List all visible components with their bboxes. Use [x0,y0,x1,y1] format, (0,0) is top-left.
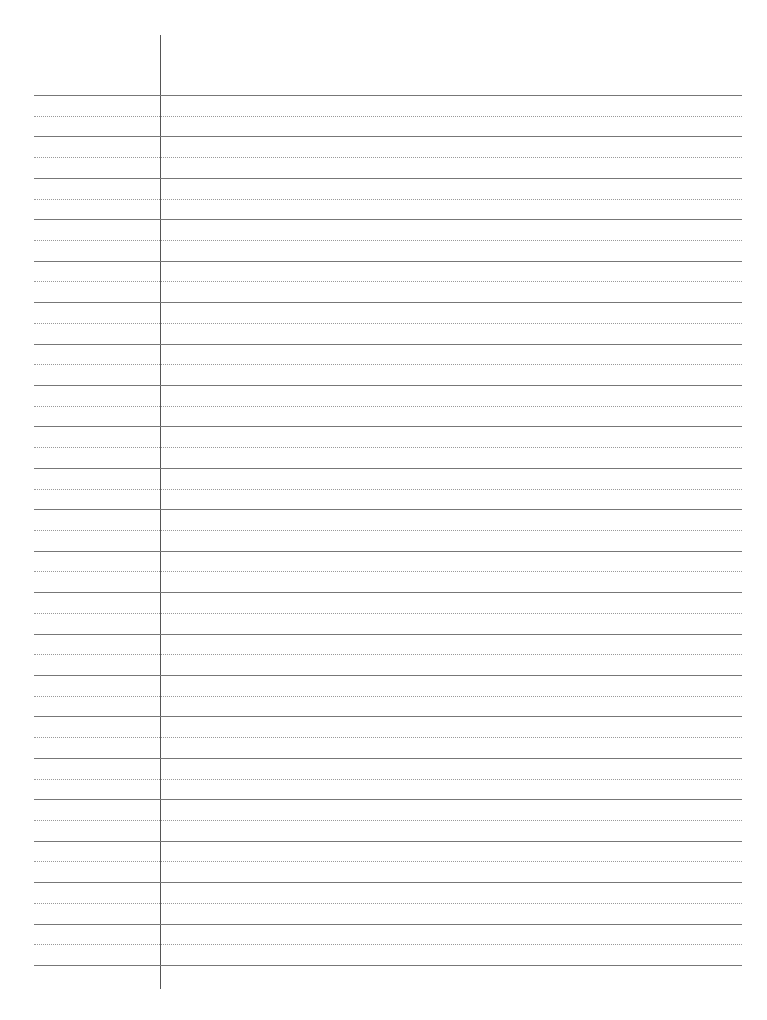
dotted-guide-line [34,861,742,862]
solid-rule-line [34,841,742,842]
dotted-guide-line [34,281,742,282]
solid-rule-line [34,716,742,717]
solid-rule-line [34,261,742,262]
dotted-guide-line [34,406,742,407]
dotted-guide-line [34,903,742,904]
solid-rule-line [34,178,742,179]
solid-rule-line [34,136,742,137]
solid-rule-line [34,95,742,96]
solid-rule-line [34,426,742,427]
solid-rule-line [34,468,742,469]
solid-rule-line [34,592,742,593]
dotted-guide-line [34,779,742,780]
dotted-guide-line [34,571,742,572]
dotted-guide-line [34,157,742,158]
dotted-guide-line [34,447,742,448]
solid-rule-line [34,882,742,883]
solid-rule-line [34,509,742,510]
solid-rule-line [34,799,742,800]
dotted-guide-line [34,820,742,821]
dotted-guide-line [34,737,742,738]
solid-rule-line [34,551,742,552]
solid-rule-line [34,924,742,925]
dotted-guide-line [34,364,742,365]
solid-rule-line [34,385,742,386]
dotted-guide-line [34,489,742,490]
dotted-guide-line [34,944,742,945]
solid-rule-line [34,758,742,759]
solid-rule-line [34,675,742,676]
solid-rule-line [34,302,742,303]
dotted-guide-line [34,654,742,655]
solid-rule-line [34,219,742,220]
dotted-guide-line [34,696,742,697]
dotted-guide-line [34,116,742,117]
solid-rule-line [34,634,742,635]
dotted-guide-line [34,530,742,531]
dotted-guide-line [34,199,742,200]
solid-rule-line [34,344,742,345]
dotted-guide-line [34,323,742,324]
dotted-guide-line [34,613,742,614]
dotted-guide-line [34,240,742,241]
solid-rule-line [34,965,742,966]
lined-paper-page [0,0,767,1020]
